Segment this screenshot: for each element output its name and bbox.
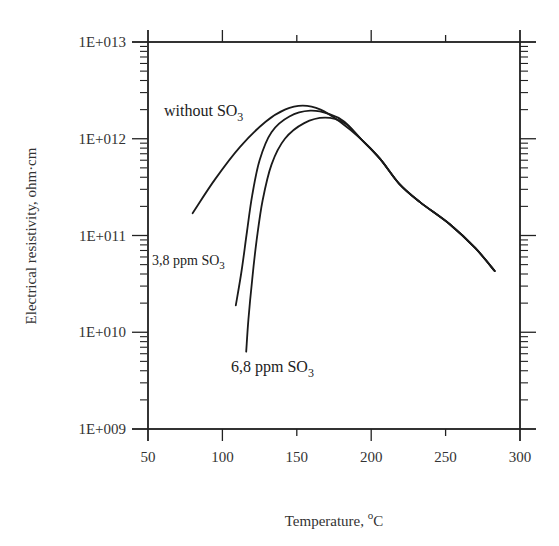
series-line-3	[246, 118, 495, 352]
y-axis-title: Electrical resistivity, ohm·cm	[23, 147, 39, 324]
x-tick-label: 150	[286, 449, 309, 465]
annotation-without-so3: without SO3	[164, 102, 243, 124]
x-tick-label: 100	[211, 449, 234, 465]
y-tick-label: 1E+012	[78, 131, 126, 147]
annotation-6-8-ppm: 6,8 ppm SO3	[231, 358, 314, 380]
series-line-2	[236, 111, 495, 306]
x-tick-label: 50	[141, 449, 156, 465]
x-tick-label: 200	[360, 449, 383, 465]
x-tick-label: 300	[509, 449, 532, 465]
annotation-3-8-ppm: 3,8 ppm SO3	[152, 253, 225, 271]
data-curves	[193, 106, 495, 352]
plot-border	[148, 42, 520, 429]
resistivity-chart: 50100150200250300 1E+0091E+0101E+0111E+0…	[0, 0, 559, 546]
y-tick-label: 1E+013	[78, 34, 126, 50]
axis-ticks	[132, 30, 536, 441]
series-line-1	[193, 106, 495, 271]
x-tick-label: 250	[434, 449, 457, 465]
y-tick-label: 1E+009	[78, 421, 126, 437]
y-tick-label: 1E+010	[78, 324, 126, 340]
x-tick-labels: 50100150200250300	[141, 449, 532, 465]
x-axis-title: Temperature, oC	[285, 509, 384, 529]
y-tick-label: 1E+011	[79, 228, 126, 244]
y-tick-labels: 1E+0091E+0101E+0111E+0121E+013	[78, 34, 126, 437]
plot-frame	[148, 42, 520, 429]
